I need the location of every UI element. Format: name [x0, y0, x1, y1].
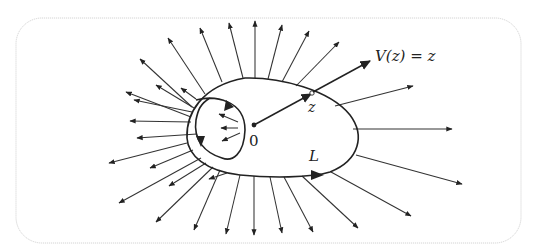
- curve-L: [187, 78, 358, 177]
- origin-label: 0: [249, 132, 259, 150]
- inner-loop: [196, 98, 245, 159]
- radius-vector: [254, 94, 311, 125]
- field-vector-V: [313, 61, 370, 92]
- curve-L-label: L: [308, 147, 319, 165]
- vector-field-diagram: 0 z V(z) = z L: [0, 0, 537, 250]
- curve-L-direction-arrow: [311, 170, 324, 180]
- figure-frame: [16, 18, 521, 243]
- field-label: V(z) = z: [375, 47, 436, 65]
- point-z-label: z: [307, 99, 316, 115]
- inner-loop-arrow-left: [196, 136, 205, 147]
- inner-loop-rays: [219, 114, 240, 141]
